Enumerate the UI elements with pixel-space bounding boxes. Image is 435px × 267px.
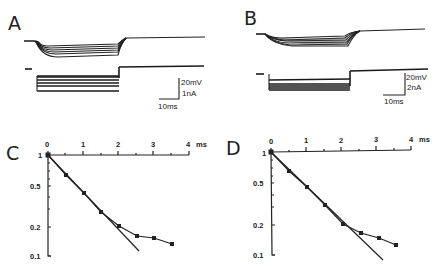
current-traces-a [25,66,204,91]
x-tick-c-1: 1 [81,140,85,149]
x-tick-d-4: 4 [409,135,414,144]
current-traces-b [256,69,428,90]
panel-a: A 20mV 1nA 10ms [8,12,205,111]
x-tick-d-2: 2 [339,136,343,145]
panel-label-d: D [226,137,241,159]
figure: A 20mV 1nA 10ms [0,0,435,267]
panel-label-a: A [8,12,21,34]
x-tick-d-1: 1 [304,136,308,145]
panel-label-c: C [6,142,19,164]
panel-d: D 0 1 2 3 4 ms 1 0.5 0.2 0.1 [226,135,430,260]
data-points-d [269,150,399,248]
scale-current-b: 2nA [407,83,422,92]
y-tick-c-0.2: 0.2 [30,223,40,232]
scale-voltage-a: 20mV [181,78,203,87]
x-tick-c-3: 3 [151,140,155,149]
voltage-traces-a [24,37,205,57]
scale-bar-b: 20mV 2nA 10ms [383,73,428,106]
voltage-traces-b [256,29,425,46]
scale-current-a: 1nA [182,89,197,98]
y-tick-d-0.5: 0.5 [253,179,263,188]
y-tick-d-1: 1 [262,149,266,158]
scale-bar-a: 20mV 1nA 10ms [158,78,203,111]
scale-time-b: 10ms [384,97,404,106]
y-tick-c-1: 1 [38,151,42,160]
data-series-d [271,152,396,245]
x-unit-c: ms [196,140,207,149]
panel-c: C 0 1 2 3 4 ms 1 0.5 0.2 0.1 [6,140,207,261]
x-tick-d-0: 0 [269,137,273,146]
scale-voltage-b: 20mV [406,73,428,82]
y-tick-d-0.1: 0.1 [253,251,263,260]
x-tick-d-3: 3 [374,135,378,144]
y-tick-c-0.5: 0.5 [30,182,40,191]
y-tick-c-0.1: 0.1 [30,252,40,261]
data-series-c [48,155,172,244]
panel-label-b: B [244,7,257,29]
x-unit-d: ms [419,135,430,144]
y-tick-d-0.2: 0.2 [253,221,263,230]
x-tick-c-4: 4 [186,140,191,149]
axes-c: 0 1 2 3 4 ms 1 0.5 0.2 0.1 [30,140,207,261]
data-points-c [46,153,175,247]
x-tick-c-0: 0 [45,140,49,149]
scale-time-a: 10ms [158,102,178,111]
panel-b: B 20mV 2nA 10ms [244,7,428,106]
axes-d: 0 1 2 3 4 ms 1 0.5 0.2 0.1 [253,135,430,260]
x-tick-c-2: 2 [116,140,120,149]
